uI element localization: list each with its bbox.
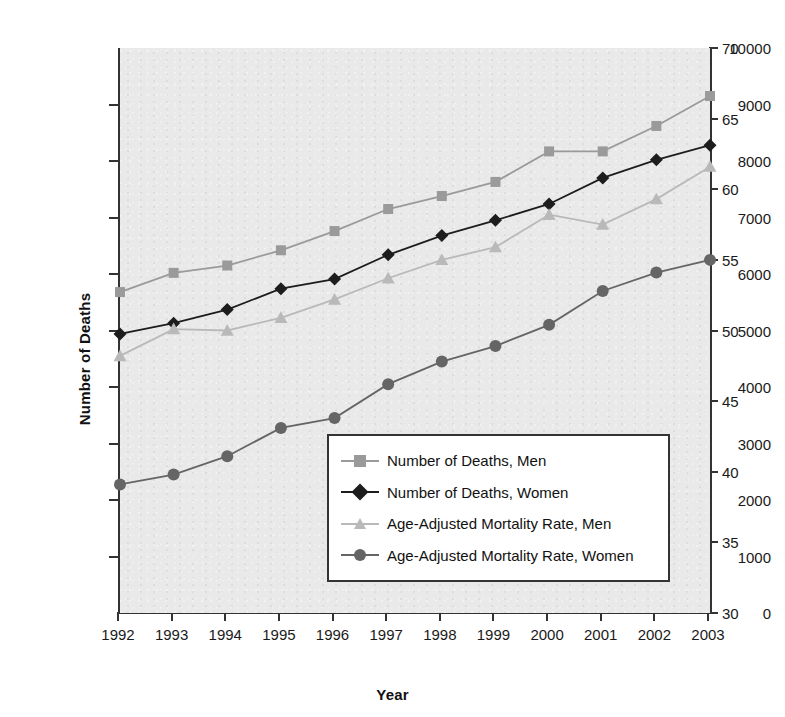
- diamond-marker: [704, 139, 717, 152]
- x-axis-tick-label: 1999: [477, 626, 510, 643]
- circle-marker: [489, 340, 501, 352]
- y-axis-left-tick-mark: [109, 386, 118, 388]
- triangle-marker: [328, 293, 341, 305]
- legend-label: Number of Deaths, Men: [387, 452, 546, 469]
- triangle-marker: [489, 241, 502, 253]
- series-line: [120, 145, 710, 334]
- diamond-marker: [435, 229, 448, 242]
- diamond-marker: [328, 273, 341, 286]
- series-1: [115, 91, 715, 297]
- y-axis-right-tick-label: 30: [722, 605, 739, 622]
- square-marker: [115, 287, 125, 297]
- x-axis-tick-label: 2003: [691, 626, 724, 643]
- square-marker: [544, 146, 554, 156]
- y-axis-left-tick-mark: [109, 273, 118, 275]
- y-axis-right-tick-label: 60: [722, 181, 739, 198]
- y-axis-left-title: Number of Deaths: [76, 292, 93, 424]
- legend-item: Number of Deaths, Women: [341, 484, 656, 501]
- y-axis-right-tick-label: 65: [722, 110, 739, 127]
- square-marker: [169, 268, 179, 278]
- x-axis-tick-label: 1992: [101, 626, 134, 643]
- square-marker: [222, 261, 232, 271]
- square-marker: [651, 121, 661, 131]
- series-2: [114, 139, 717, 341]
- circle-marker-icon: [354, 549, 366, 561]
- x-axis-tick-label: 1995: [262, 626, 295, 643]
- triangle-marker-icon: [354, 518, 366, 529]
- legend-key: [341, 548, 379, 562]
- y-axis-left-tick-label: 9000: [738, 96, 771, 113]
- y-axis-right-tick-label: 45: [722, 393, 739, 410]
- series-3: [114, 160, 717, 361]
- legend-item: Age-Adjusted Mortality Rate, Women: [341, 547, 656, 564]
- y-axis-left-tick-mark: [109, 556, 118, 558]
- circle-marker: [221, 450, 233, 462]
- y-axis-left-tick-label: 6000: [738, 266, 771, 283]
- circle-marker: [114, 478, 126, 490]
- triangle-marker: [704, 160, 717, 172]
- x-axis-tick-label: 2001: [584, 626, 617, 643]
- diamond-marker: [596, 171, 609, 184]
- x-axis-tick-label: 2002: [638, 626, 671, 643]
- square-marker: [705, 91, 715, 101]
- y-axis-right-tick-label: 55: [722, 251, 739, 268]
- y-axis-left-tick-mark: [109, 217, 118, 219]
- triangle-marker: [114, 349, 127, 361]
- y-axis-left-tick-label: 4000: [738, 379, 771, 396]
- circle-marker: [704, 254, 716, 266]
- y-axis-right-tick-label: 35: [722, 534, 739, 551]
- legend-label: Number of Deaths, Women: [387, 484, 568, 501]
- x-axis-tick-label: 1993: [155, 626, 188, 643]
- y-axis-right-tick-label: 40: [722, 463, 739, 480]
- series-line: [120, 96, 710, 292]
- triangle-marker: [543, 208, 556, 220]
- square-marker: [598, 146, 608, 156]
- y-axis-left-tick-label: 5000: [738, 322, 771, 339]
- circle-marker: [329, 412, 341, 424]
- square-marker-icon: [354, 455, 366, 467]
- y-axis-left-tick-label: 1000: [738, 548, 771, 565]
- diamond-marker: [274, 282, 287, 295]
- y-axis-left-tick-label: 2000: [738, 492, 771, 509]
- x-axis-tick-label: 1994: [209, 626, 242, 643]
- legend-label: Age-Adjusted Mortality Rate, Women: [387, 547, 634, 564]
- circle-marker: [168, 469, 180, 481]
- square-marker: [330, 226, 340, 236]
- y-axis-right-tick-label: 50: [722, 322, 739, 339]
- legend-key: [341, 454, 379, 468]
- y-axis-left-tick-mark: [109, 499, 118, 501]
- x-axis-title: Year: [0, 686, 785, 703]
- chart-figure: Number of Deaths Mortality Rate per 1,00…: [0, 0, 785, 717]
- diamond-marker: [221, 303, 234, 316]
- x-axis-tick-label: 1998: [423, 626, 456, 643]
- square-marker: [276, 245, 286, 255]
- legend-key: [341, 485, 379, 499]
- y-axis-left-tick-mark: [109, 443, 118, 445]
- legend-item: Number of Deaths, Men: [341, 452, 656, 469]
- triangle-marker: [650, 193, 663, 205]
- circle-marker: [650, 267, 662, 279]
- square-marker: [383, 204, 393, 214]
- circle-marker: [543, 319, 555, 331]
- y-axis-left-tick-label: 8000: [738, 153, 771, 170]
- x-axis-tick-label: 1996: [316, 626, 349, 643]
- y-axis-left-tick-mark: [109, 104, 118, 106]
- circle-marker: [436, 356, 448, 368]
- legend-key: [341, 517, 379, 531]
- y-axis-left-tick-label: 7000: [738, 209, 771, 226]
- square-marker: [490, 177, 500, 187]
- y-axis-left-tick-mark: [109, 160, 118, 162]
- chart-legend: Number of Deaths, MenNumber of Deaths, W…: [327, 434, 670, 582]
- x-axis-tick-label: 2000: [530, 626, 563, 643]
- y-axis-left-tick-label: 0: [763, 605, 771, 622]
- legend-item: Age-Adjusted Mortality Rate, Men: [341, 515, 656, 532]
- series-line: [120, 167, 710, 356]
- diamond-marker: [650, 153, 663, 166]
- square-marker: [437, 191, 447, 201]
- diamond-marker: [382, 248, 395, 261]
- legend-label: Age-Adjusted Mortality Rate, Men: [387, 515, 611, 532]
- x-axis-tick-label: 1997: [369, 626, 402, 643]
- diamond-marker-icon: [352, 484, 369, 501]
- diamond-marker: [489, 214, 502, 227]
- circle-marker: [597, 285, 609, 297]
